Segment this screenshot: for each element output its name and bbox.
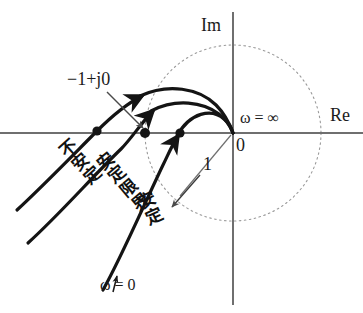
nyquist-figure: Im Re 0 −1+j0 ω = ∞ ω = 0 1 不安定 安定限界 安定 <box>0 0 363 313</box>
real-axis-label: Re <box>330 106 350 124</box>
omega-infinity-label: ω = ∞ <box>240 110 279 126</box>
nyquist-plot-svg <box>0 0 363 313</box>
imaginary-axis-label: Im <box>201 16 221 34</box>
crossing-dot-critical <box>140 128 150 138</box>
crossing-dot-unstable <box>92 126 101 135</box>
critical-point-label: −1+j0 <box>67 70 110 88</box>
unit-radius-arrow <box>172 175 200 207</box>
crossing-dot-stable <box>175 128 184 137</box>
origin-label: 0 <box>236 136 245 154</box>
unit-radius-label: 1 <box>203 155 212 173</box>
omega-zero-label: ω = 0 <box>100 277 136 293</box>
